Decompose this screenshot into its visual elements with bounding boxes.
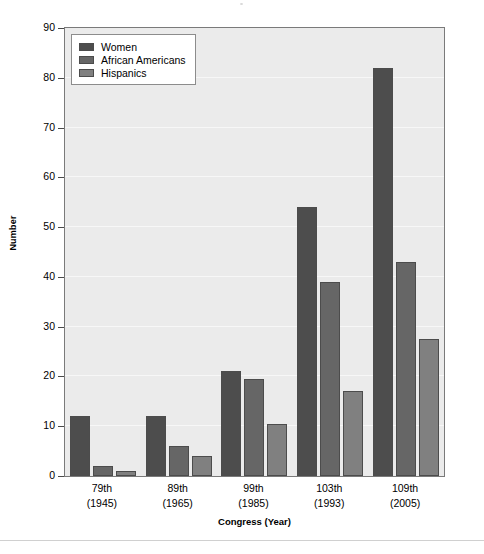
bar xyxy=(244,379,264,476)
bar xyxy=(70,416,90,476)
bar-chart-figure: Number 0102030405060708090 79th(1945)89t… xyxy=(0,0,484,554)
x-tick-label-line1: 103th xyxy=(316,482,342,494)
legend-swatch-icon xyxy=(79,43,94,51)
x-tick-label: 109th(2005) xyxy=(367,481,443,511)
bar xyxy=(169,446,189,476)
y-tick-label: 60 xyxy=(15,170,55,182)
x-tick-label-line1: 99th xyxy=(243,482,263,494)
bottom-divider xyxy=(0,540,484,541)
chart-legend: WomenAfrican AmericansHispanics xyxy=(71,34,196,85)
bar xyxy=(116,471,136,476)
x-tick-label-line2: (1993) xyxy=(291,496,367,511)
bar xyxy=(373,68,393,476)
x-axis-ticks: 79th(1945)89th(1965)99th(1985)103th(1993… xyxy=(64,481,445,517)
bar-group xyxy=(217,28,293,476)
bar-group xyxy=(292,28,368,476)
y-tick-label: 40 xyxy=(15,270,55,282)
bar-series-container xyxy=(65,28,444,476)
x-tick-label: 103th(1993) xyxy=(291,481,367,511)
bar xyxy=(267,424,287,476)
bar xyxy=(93,466,113,476)
legend-swatch-icon xyxy=(79,56,94,64)
legend-item: Women xyxy=(79,40,186,53)
legend-label: Hispanics xyxy=(101,67,147,79)
bar xyxy=(146,416,166,476)
x-tick-label-line1: 109th xyxy=(392,482,418,494)
y-tick-label: 20 xyxy=(15,369,55,381)
legend-label: African Americans xyxy=(101,54,186,66)
bar-group xyxy=(141,28,217,476)
bar xyxy=(192,456,212,476)
x-tick-label-line2: (2005) xyxy=(367,496,443,511)
bar xyxy=(320,282,340,476)
bar xyxy=(396,262,416,476)
bar-group xyxy=(65,28,141,476)
x-tick-label: 89th(1965) xyxy=(140,481,216,511)
y-tick-label: 90 xyxy=(15,21,55,33)
x-tick-label-line2: (1985) xyxy=(216,496,292,511)
legend-swatch-icon xyxy=(79,69,94,77)
x-tick-label: 99th(1985) xyxy=(216,481,292,511)
page-artifact-dot xyxy=(240,3,243,5)
bar xyxy=(419,339,439,476)
bar xyxy=(343,391,363,476)
legend-item: African Americans xyxy=(79,53,186,66)
y-tick-label: 30 xyxy=(15,320,55,332)
bar xyxy=(297,207,317,476)
x-tick-label-line2: (1945) xyxy=(64,496,140,511)
bar xyxy=(221,371,241,476)
legend-label: Women xyxy=(101,41,137,53)
x-tick-label-line1: 79th xyxy=(92,482,112,494)
x-tick-label-line1: 89th xyxy=(167,482,187,494)
x-axis-title: Congress (Year) xyxy=(64,516,445,527)
plot-area xyxy=(64,27,445,477)
x-tick-label-line2: (1965) xyxy=(140,496,216,511)
y-tick-label: 70 xyxy=(15,121,55,133)
y-axis-ticks: 0102030405060708090 xyxy=(0,27,64,477)
legend-item: Hispanics xyxy=(79,66,186,79)
y-tick-label: 50 xyxy=(15,220,55,232)
y-tick-label: 10 xyxy=(15,419,55,431)
y-tick-label: 0 xyxy=(15,469,55,481)
y-tick-label: 80 xyxy=(15,71,55,83)
x-tick-label: 79th(1945) xyxy=(64,481,140,511)
bar-group xyxy=(368,28,444,476)
